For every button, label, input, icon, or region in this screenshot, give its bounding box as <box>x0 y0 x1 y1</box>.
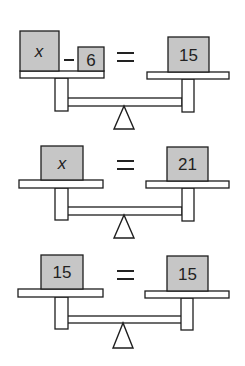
equals-sign <box>117 161 134 169</box>
variable-label: x <box>57 154 67 173</box>
fulcrum-triangle <box>114 215 134 238</box>
right-pan <box>145 291 229 298</box>
weight-label: 15 <box>178 265 197 284</box>
right-post <box>182 188 194 221</box>
weight-label: 15 <box>179 46 198 65</box>
balance-beam <box>67 207 182 215</box>
weight-label: 6 <box>86 51 95 70</box>
balance-beam <box>67 98 182 106</box>
right-post <box>182 79 194 112</box>
right-post <box>181 298 193 330</box>
weight-label: 15 <box>53 263 72 282</box>
left-post <box>55 297 68 329</box>
left-post <box>55 78 68 111</box>
fulcrum-triangle <box>114 106 134 129</box>
fulcrum-triangle <box>113 323 133 348</box>
left-pan <box>20 71 104 78</box>
left-pan <box>19 180 103 188</box>
equals-sign <box>117 53 134 61</box>
variable-label: x <box>34 42 44 61</box>
right-pan <box>147 72 229 79</box>
balance-scale-2: x 21 <box>19 146 229 238</box>
balance-scales-diagram: x 6 15 x 21 <box>0 0 245 366</box>
left-post <box>55 188 68 220</box>
weight-label: 21 <box>178 155 197 174</box>
balance-scale-3: 15 15 <box>18 255 229 348</box>
balance-beam <box>67 316 182 323</box>
equals-sign <box>117 271 134 279</box>
balance-scale-1: x 6 15 <box>20 31 229 129</box>
right-pan <box>146 181 229 188</box>
left-pan <box>18 289 103 297</box>
